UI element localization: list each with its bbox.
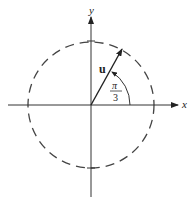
unit-circle-diagram: y x u π 3 xyxy=(0,0,196,206)
angle-denominator: 3 xyxy=(113,92,118,103)
y-axis-label: y xyxy=(88,4,94,16)
angle-numerator: π xyxy=(112,80,118,91)
x-axis-label: x xyxy=(181,98,187,110)
vector-label: u xyxy=(99,62,106,76)
